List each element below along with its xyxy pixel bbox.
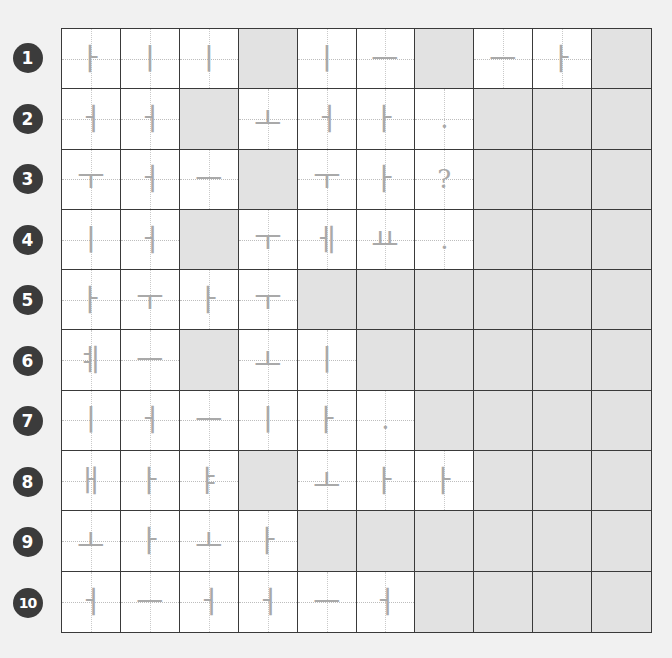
practice-cell[interactable]: . [415, 89, 474, 149]
traced-glyph: ㅣ [195, 44, 223, 74]
traced-glyph: ㅓ [77, 587, 105, 617]
practice-cell[interactable]: ㅣ [62, 391, 121, 451]
practice-cell[interactable]: ? [415, 150, 474, 210]
practice-cell[interactable]: ㅜ [298, 150, 357, 210]
traced-glyph: ㅣ [313, 44, 341, 74]
practice-cell[interactable]: ㅔ [298, 210, 357, 270]
traced-glyph: ㅡ [489, 44, 517, 74]
practice-cell[interactable]: ㅗ [239, 89, 298, 149]
practice-cell[interactable]: ㅣ [180, 29, 239, 89]
practice-cell[interactable]: ㅓ [239, 572, 298, 632]
shaded-cell [533, 451, 592, 511]
traced-glyph: ㅏ [313, 405, 341, 435]
practice-cell[interactable]: ㅗ [180, 511, 239, 571]
practice-cell[interactable]: ㅏ [415, 451, 474, 511]
traced-glyph: ㅏ [77, 44, 105, 74]
shaded-cell [415, 270, 474, 330]
practice-cell[interactable]: ㅣ [239, 391, 298, 451]
practice-cell[interactable]: ㅣ [298, 330, 357, 390]
shaded-cell [592, 451, 651, 511]
shaded-cell [180, 89, 239, 149]
practice-cell[interactable]: ㅏ [121, 511, 180, 571]
shaded-cell [533, 150, 592, 210]
traced-glyph: ㅏ [371, 104, 399, 134]
practice-cell[interactable]: ㅓ [298, 89, 357, 149]
shaded-cell [357, 330, 416, 390]
shaded-cell [533, 511, 592, 571]
practice-cell[interactable]: ㅗ [62, 511, 121, 571]
practice-cell[interactable]: ㅗ [239, 330, 298, 390]
practice-cell[interactable]: ㅡ [180, 391, 239, 451]
practice-cell[interactable]: ㅓ [357, 572, 416, 632]
practice-cell[interactable]: ㅓ [121, 210, 180, 270]
traced-glyph: ㅗ [313, 466, 341, 496]
practice-cell[interactable]: ㅏ [239, 511, 298, 571]
practice-cell[interactable]: ㅏ [533, 29, 592, 89]
practice-cell[interactable]: ㅐ [62, 451, 121, 511]
shaded-cell [298, 511, 357, 571]
traced-glyph: ㅗ [254, 104, 282, 134]
practice-cell[interactable]: . [357, 391, 416, 451]
shaded-cell [474, 330, 533, 390]
practice-cell[interactable]: ㅏ [357, 150, 416, 210]
practice-cell[interactable]: ㅏ [357, 451, 416, 511]
shaded-cell [474, 451, 533, 511]
practice-cell[interactable]: ㅣ [62, 210, 121, 270]
shaded-cell [592, 572, 651, 632]
traced-glyph: ㅜ [254, 225, 282, 255]
shaded-cell [415, 511, 474, 571]
practice-cell[interactable]: ㅏ [62, 270, 121, 330]
row-badge-cell: 8 [0, 452, 61, 513]
practice-cell[interactable]: . [415, 210, 474, 270]
shaded-cell [239, 150, 298, 210]
practice-cell[interactable]: ㅓ [180, 572, 239, 632]
row-badge-cell: 7 [0, 391, 61, 452]
practice-cell[interactable]: ㅑ [180, 451, 239, 511]
practice-cell[interactable]: ㅜ [239, 270, 298, 330]
cut-off-heading-left: ▁▁▁▁▁▁▁▁▁▁▁ [18, 0, 147, 5]
traced-glyph: ㅓ [136, 104, 164, 134]
traced-glyph: ㅜ [77, 164, 105, 194]
traced-glyph: ㅣ [254, 405, 282, 435]
practice-cell[interactable]: ㅡ [180, 150, 239, 210]
practice-cell[interactable]: ㅏ [357, 89, 416, 149]
practice-cell[interactable]: ㅖ [62, 330, 121, 390]
practice-cell[interactable]: ㅏ [62, 29, 121, 89]
shaded-cell [415, 391, 474, 451]
practice-cell[interactable]: ㅓ [121, 150, 180, 210]
traced-glyph: ㅡ [136, 345, 164, 375]
traced-glyph: ㅏ [195, 285, 223, 315]
practice-cell[interactable]: ㅜ [239, 210, 298, 270]
practice-cell[interactable]: ㅛ [357, 210, 416, 270]
traced-glyph: ㅏ [136, 526, 164, 556]
practice-cell[interactable]: ㅣ [121, 29, 180, 89]
traced-glyph: ㅡ [195, 164, 223, 194]
practice-cell[interactable]: ㅡ [474, 29, 533, 89]
row-number-badge: 9 [13, 527, 43, 557]
practice-cell[interactable]: ㅏ [180, 270, 239, 330]
practice-cell[interactable]: ㅜ [62, 150, 121, 210]
practice-cell[interactable]: ㅜ [121, 270, 180, 330]
practice-cell[interactable]: ㅗ [298, 451, 357, 511]
row-badge-cell: 5 [0, 270, 61, 331]
row-badge-cell: 4 [0, 210, 61, 271]
traced-glyph: ㅓ [136, 405, 164, 435]
shaded-cell [357, 270, 416, 330]
practice-cell[interactable]: ㅏ [298, 391, 357, 451]
practice-cell[interactable]: ㅓ [62, 572, 121, 632]
practice-cell[interactable]: ㅡ [121, 330, 180, 390]
shaded-cell [533, 89, 592, 149]
practice-cell[interactable]: ㅓ [121, 89, 180, 149]
practice-cell[interactable]: ㅡ [121, 572, 180, 632]
traced-glyph: ㅏ [77, 285, 105, 315]
traced-glyph: ㅡ [371, 44, 399, 74]
practice-cell[interactable]: ㅡ [357, 29, 416, 89]
practice-cell[interactable]: ㅡ [298, 572, 357, 632]
practice-cell[interactable]: ㅓ [62, 89, 121, 149]
practice-cell[interactable]: ㅓ [121, 391, 180, 451]
row-number-badge: 1 [13, 43, 43, 73]
traced-glyph: ㅡ [313, 587, 341, 617]
practice-cell[interactable]: ㅣ [298, 29, 357, 89]
traced-glyph: ㅖ [77, 345, 105, 375]
practice-cell[interactable]: ㅏ [121, 451, 180, 511]
